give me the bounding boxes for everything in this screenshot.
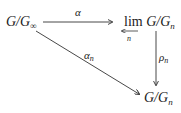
lim-index-label: n (127, 35, 131, 43)
node-limit: lim G/Gn (124, 15, 175, 31)
label-alpha-n: αn (84, 50, 94, 63)
label-alpha: α (75, 7, 81, 18)
label-rho-n: ρn (159, 52, 168, 65)
node-source: G/G∞ (6, 15, 37, 31)
node-target: G/Gn (144, 91, 173, 107)
